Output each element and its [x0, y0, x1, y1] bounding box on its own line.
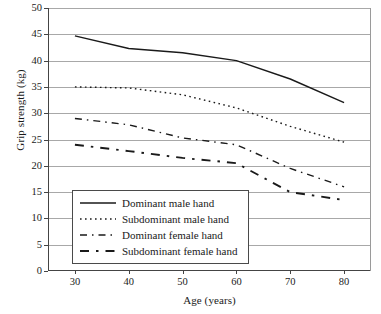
y-tick-label: 0	[8, 266, 42, 276]
x-tick-label: 60	[216, 276, 256, 287]
y-tick-label: 30	[8, 108, 42, 118]
y-axis-tick-labels: 05101520253035404550	[6, 8, 42, 271]
legend-item: Subdominant female hand	[78, 243, 243, 259]
y-tick-label: 5	[8, 240, 42, 250]
legend-label: Subdominant female hand	[122, 244, 237, 258]
legend-swatch-dominant-male-hand	[78, 196, 118, 210]
y-tick-label: 15	[8, 187, 42, 197]
x-tick-label: 50	[163, 276, 203, 287]
legend-swatch-subdominant-female-hand	[78, 244, 118, 258]
legend-swatch-dominant-female-hand	[78, 228, 118, 242]
legend-item: Dominant female hand	[78, 227, 243, 243]
x-axis-line	[48, 270, 371, 271]
plot-right-edge	[370, 8, 371, 271]
chart-legend: Dominant male hand Subdominant male hand…	[72, 190, 249, 264]
legend-label: Dominant male hand	[122, 196, 214, 210]
y-tick-label: 45	[8, 29, 42, 39]
legend-item: Dominant male hand	[78, 195, 243, 211]
x-tick-label: 40	[109, 276, 149, 287]
y-axis-line	[48, 8, 49, 271]
x-tick-label: 30	[55, 276, 95, 287]
legend-item: Subdominant male hand	[78, 211, 243, 227]
y-tick-label: 50	[8, 3, 42, 13]
legend-swatch-subdominant-male-hand	[78, 212, 118, 226]
series-line-dominant-female-hand	[75, 118, 344, 186]
series-line-dominant-male-hand	[75, 36, 344, 103]
y-tick-label: 25	[8, 135, 42, 145]
y-tick-label: 40	[8, 56, 42, 66]
x-tick-label: 70	[270, 276, 310, 287]
legend-label: Dominant female hand	[122, 228, 223, 242]
y-tick-label: 20	[8, 161, 42, 171]
y-tick-mark	[44, 271, 48, 272]
y-tick-label: 10	[8, 213, 42, 223]
grip-strength-line-chart: Grip strength (kg) Age (years) 051015202…	[0, 0, 381, 314]
y-tick-label: 35	[8, 82, 42, 92]
x-tick-label: 80	[324, 276, 364, 287]
series-line-subdominant-male-hand	[75, 87, 344, 142]
legend-label: Subdominant male hand	[122, 212, 229, 226]
